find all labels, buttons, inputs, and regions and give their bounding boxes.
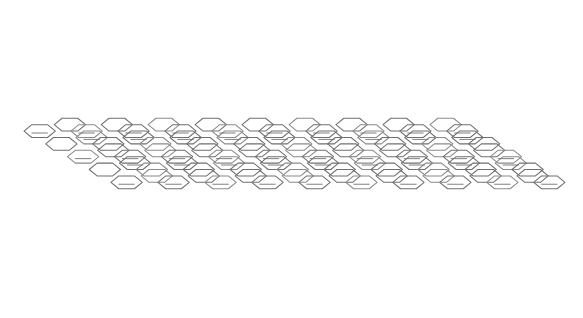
- hexagon-ring: [111, 176, 142, 189]
- graphene-lattice-svg: [0, 0, 583, 318]
- hexagon-ring: [24, 125, 55, 138]
- hexagon-ring: [67, 150, 98, 163]
- figure-root: [0, 0, 583, 318]
- hexagon-ring: [46, 137, 77, 150]
- hexagon-ring: [89, 163, 120, 176]
- hexagon-ring-layer: [24, 118, 565, 188]
